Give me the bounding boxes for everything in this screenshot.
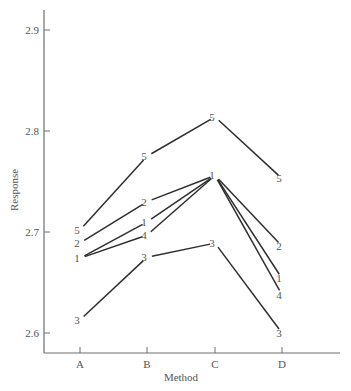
series-3-segment xyxy=(84,261,144,317)
series-5-segment xyxy=(151,119,210,153)
point-label-4: 4 xyxy=(141,229,147,241)
y-tick-label: 2.9 xyxy=(25,24,39,36)
point-label-2: 2 xyxy=(141,196,147,208)
point-label-1: 1 xyxy=(74,252,80,264)
y-tick-label: 2.8 xyxy=(25,125,39,137)
series-2-segment xyxy=(218,179,278,242)
series-4-segment xyxy=(151,179,211,232)
point-label-3: 3 xyxy=(276,327,282,339)
point-label-4: 4 xyxy=(276,289,282,301)
point-label-2: 2 xyxy=(276,240,282,252)
y-axis-title: Response xyxy=(8,169,20,211)
series-3-segment xyxy=(152,244,210,256)
series-5-segment xyxy=(83,160,143,226)
series-lines xyxy=(83,119,279,329)
y-axis-ticks: 2.62.72.82.9 xyxy=(25,24,50,339)
x-tick-label: D xyxy=(278,358,286,370)
x-axis-title: Method xyxy=(164,371,199,383)
x-tick-label: C xyxy=(211,358,218,370)
axes xyxy=(44,10,340,353)
series-2-segment xyxy=(84,204,142,240)
point-label-2: 2 xyxy=(74,237,80,249)
point-labels: 52135214351352143 xyxy=(74,111,282,339)
point-label-5: 5 xyxy=(141,150,147,162)
point-label-5: 5 xyxy=(74,224,80,236)
y-tick-label: 2.7 xyxy=(25,226,39,238)
point-label-1: 1 xyxy=(141,216,147,228)
interaction-plot: 2.62.72.82.9 ABCD 52135214351352143 Meth… xyxy=(0,0,351,391)
point-label-3: 3 xyxy=(141,251,147,263)
x-axis-ticks: ABCD xyxy=(76,347,286,370)
series-4-segment xyxy=(217,180,279,290)
series-1-segment xyxy=(151,178,211,219)
y-tick-label: 2.6 xyxy=(25,327,39,339)
x-tick-label: B xyxy=(143,358,150,370)
point-label-5: 5 xyxy=(276,172,282,184)
series-5-segment xyxy=(219,120,279,175)
x-tick-label: A xyxy=(76,358,84,370)
point-label-1: 1 xyxy=(209,169,215,181)
point-label-5: 5 xyxy=(209,111,215,123)
point-label-3: 3 xyxy=(209,237,215,249)
point-label-3: 3 xyxy=(74,314,80,326)
series-2-segment xyxy=(152,177,211,200)
point-label-1: 1 xyxy=(276,272,282,284)
